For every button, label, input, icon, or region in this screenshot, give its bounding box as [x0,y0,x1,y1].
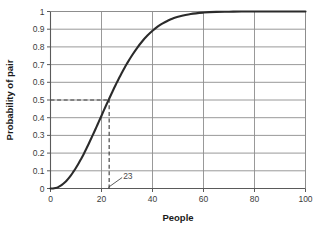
x-tick-label: 60 [199,194,209,204]
x-axis-title: People [162,212,193,223]
y-tick-label: 0.1 [33,166,45,176]
x-tick-label: 0 [48,194,53,204]
y-tick-label: 0.8 [33,42,45,52]
probability-of-pair-chart: 00.10.20.30.40.50.60.70.80.91 0204060801… [0,0,322,230]
y-tick-label: 0.3 [33,130,45,140]
y-tick-label: 0.2 [33,148,45,158]
y-tick-label: 0.6 [33,77,45,87]
x-tick-label: 20 [97,194,107,204]
chart-container: 00.10.20.30.40.50.60.70.80.91 0204060801… [0,0,322,230]
y-tick-label: 0.7 [33,60,45,70]
x-tick-label: 40 [148,194,158,204]
y-tick-label: 0.9 [33,24,45,34]
x-tick-label: 80 [250,194,260,204]
y-axis-title: Probability of pair [4,59,15,140]
y-tick-label: 0 [40,184,45,194]
x-tick-label: 100 [298,194,312,204]
y-tick-label: 0.4 [33,113,45,123]
annotation-label-23: 23 [123,171,133,181]
y-tick-label: 1 [40,7,45,17]
y-tick-label: 0.5 [33,95,45,105]
